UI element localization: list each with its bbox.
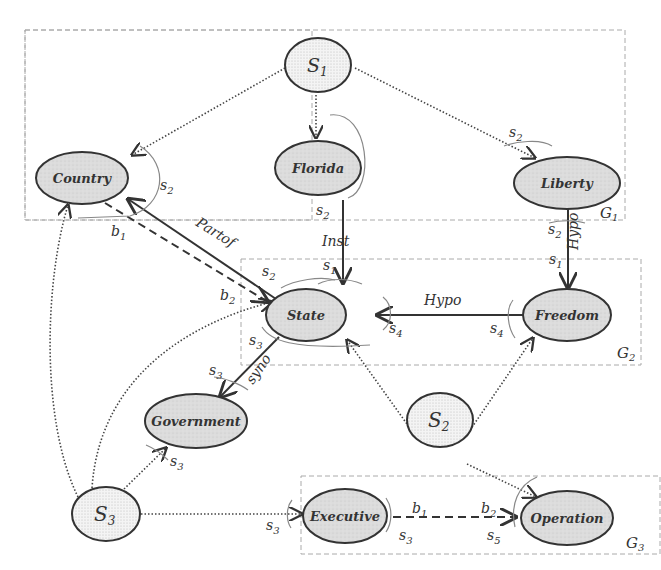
node-operation[interactable]: Operation [521, 491, 613, 545]
svg-text:s3: s3 [249, 332, 263, 351]
svg-text:s2: s2 [262, 263, 276, 282]
edge-label-partof: Partof [193, 213, 241, 251]
semantic-graph-diagram: G1 G2 G3 [0, 0, 661, 570]
node-label-country: Country [53, 171, 113, 186]
node-liberty[interactable]: Liberty [514, 157, 620, 209]
svg-text:s2: s2 [548, 221, 562, 240]
svg-text:s3: s3 [209, 362, 223, 381]
node-label-operation: Operation [530, 511, 603, 526]
svg-text:s2: s2 [316, 202, 330, 221]
svg-text:s4: s4 [490, 320, 504, 339]
group-label-g2: G2 [617, 344, 635, 363]
node-s2[interactable]: S2 [407, 393, 473, 447]
svg-text:b1: b1 [111, 223, 126, 242]
svg-text:b2: b2 [220, 287, 235, 306]
svg-text:s3: s3 [266, 517, 280, 536]
svg-text:s3: s3 [399, 527, 413, 546]
node-florida[interactable]: Florida [275, 141, 361, 195]
svg-text:s4: s4 [389, 320, 403, 339]
node-label-florida: Florida [291, 161, 344, 176]
edge-label-hypo-vertical: Hypo [565, 212, 581, 251]
node-label-state: State [287, 308, 325, 323]
node-freedom[interactable]: Freedom [523, 289, 611, 341]
node-label-executive: Executive [309, 509, 380, 524]
node-label-freedom: Freedom [534, 308, 599, 323]
dashed-edges [105, 203, 516, 517]
svg-text:s5: s5 [487, 527, 501, 546]
node-label-government: Government [151, 414, 240, 429]
solid-edges [128, 199, 568, 397]
group-label-g1: G1 [600, 204, 618, 223]
svg-text:s1: s1 [323, 257, 337, 276]
group-label-g3: G3 [626, 534, 644, 553]
node-s1[interactable]: S1 [285, 38, 351, 92]
node-country[interactable]: Country [36, 152, 128, 204]
node-executive[interactable]: Executive [303, 489, 387, 543]
node-state[interactable]: State [266, 289, 346, 341]
node-label-liberty: Liberty [540, 176, 594, 191]
svg-text:s3: s3 [170, 453, 184, 472]
svg-text:s2: s2 [509, 124, 523, 143]
svg-text:s1: s1 [549, 251, 563, 270]
node-s3[interactable]: S3 [72, 487, 140, 541]
node-government[interactable]: Government [145, 394, 247, 448]
edge-label-hypo-horizontal: Hypo [423, 292, 462, 308]
edge-label-inst: Inst [321, 233, 350, 249]
svg-text:s2: s2 [160, 177, 174, 196]
